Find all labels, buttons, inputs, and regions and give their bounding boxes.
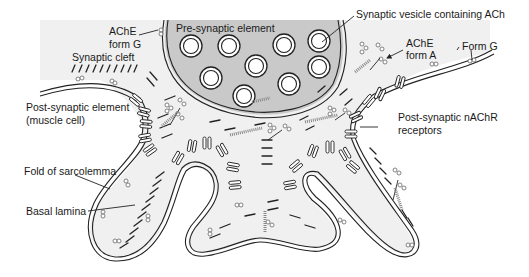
label-presynaptic: Pre-synaptic element xyxy=(176,22,275,34)
neuromuscular-junction-diagram: Pre-synaptic element Synaptic vesicle co… xyxy=(0,0,529,277)
label-ache-form-a-1: AChE xyxy=(406,37,433,49)
label-ache-form-a-2: form A xyxy=(406,49,436,61)
label-synaptic-vesicle: Synaptic vesicle containing ACh xyxy=(356,8,505,20)
label-ache-form-g-2: form G xyxy=(109,38,141,50)
label-ache-form-g-1: AChE xyxy=(109,25,136,37)
label-postsynaptic-1: Post-synaptic element xyxy=(26,101,129,113)
label-nachr-1: Post-synaptic nAChR xyxy=(398,111,498,123)
label-form-g: Form G xyxy=(462,40,498,52)
label-nachr-2: receptors xyxy=(398,124,442,136)
label-synaptic-cleft: Synaptic cleft xyxy=(72,51,135,63)
label-basal-lamina: Basal lamina xyxy=(26,205,86,217)
label-postsynaptic-2: (muscle cell) xyxy=(26,114,85,126)
label-fold-sarcolemma: Fold of sarcolemma xyxy=(24,165,116,177)
